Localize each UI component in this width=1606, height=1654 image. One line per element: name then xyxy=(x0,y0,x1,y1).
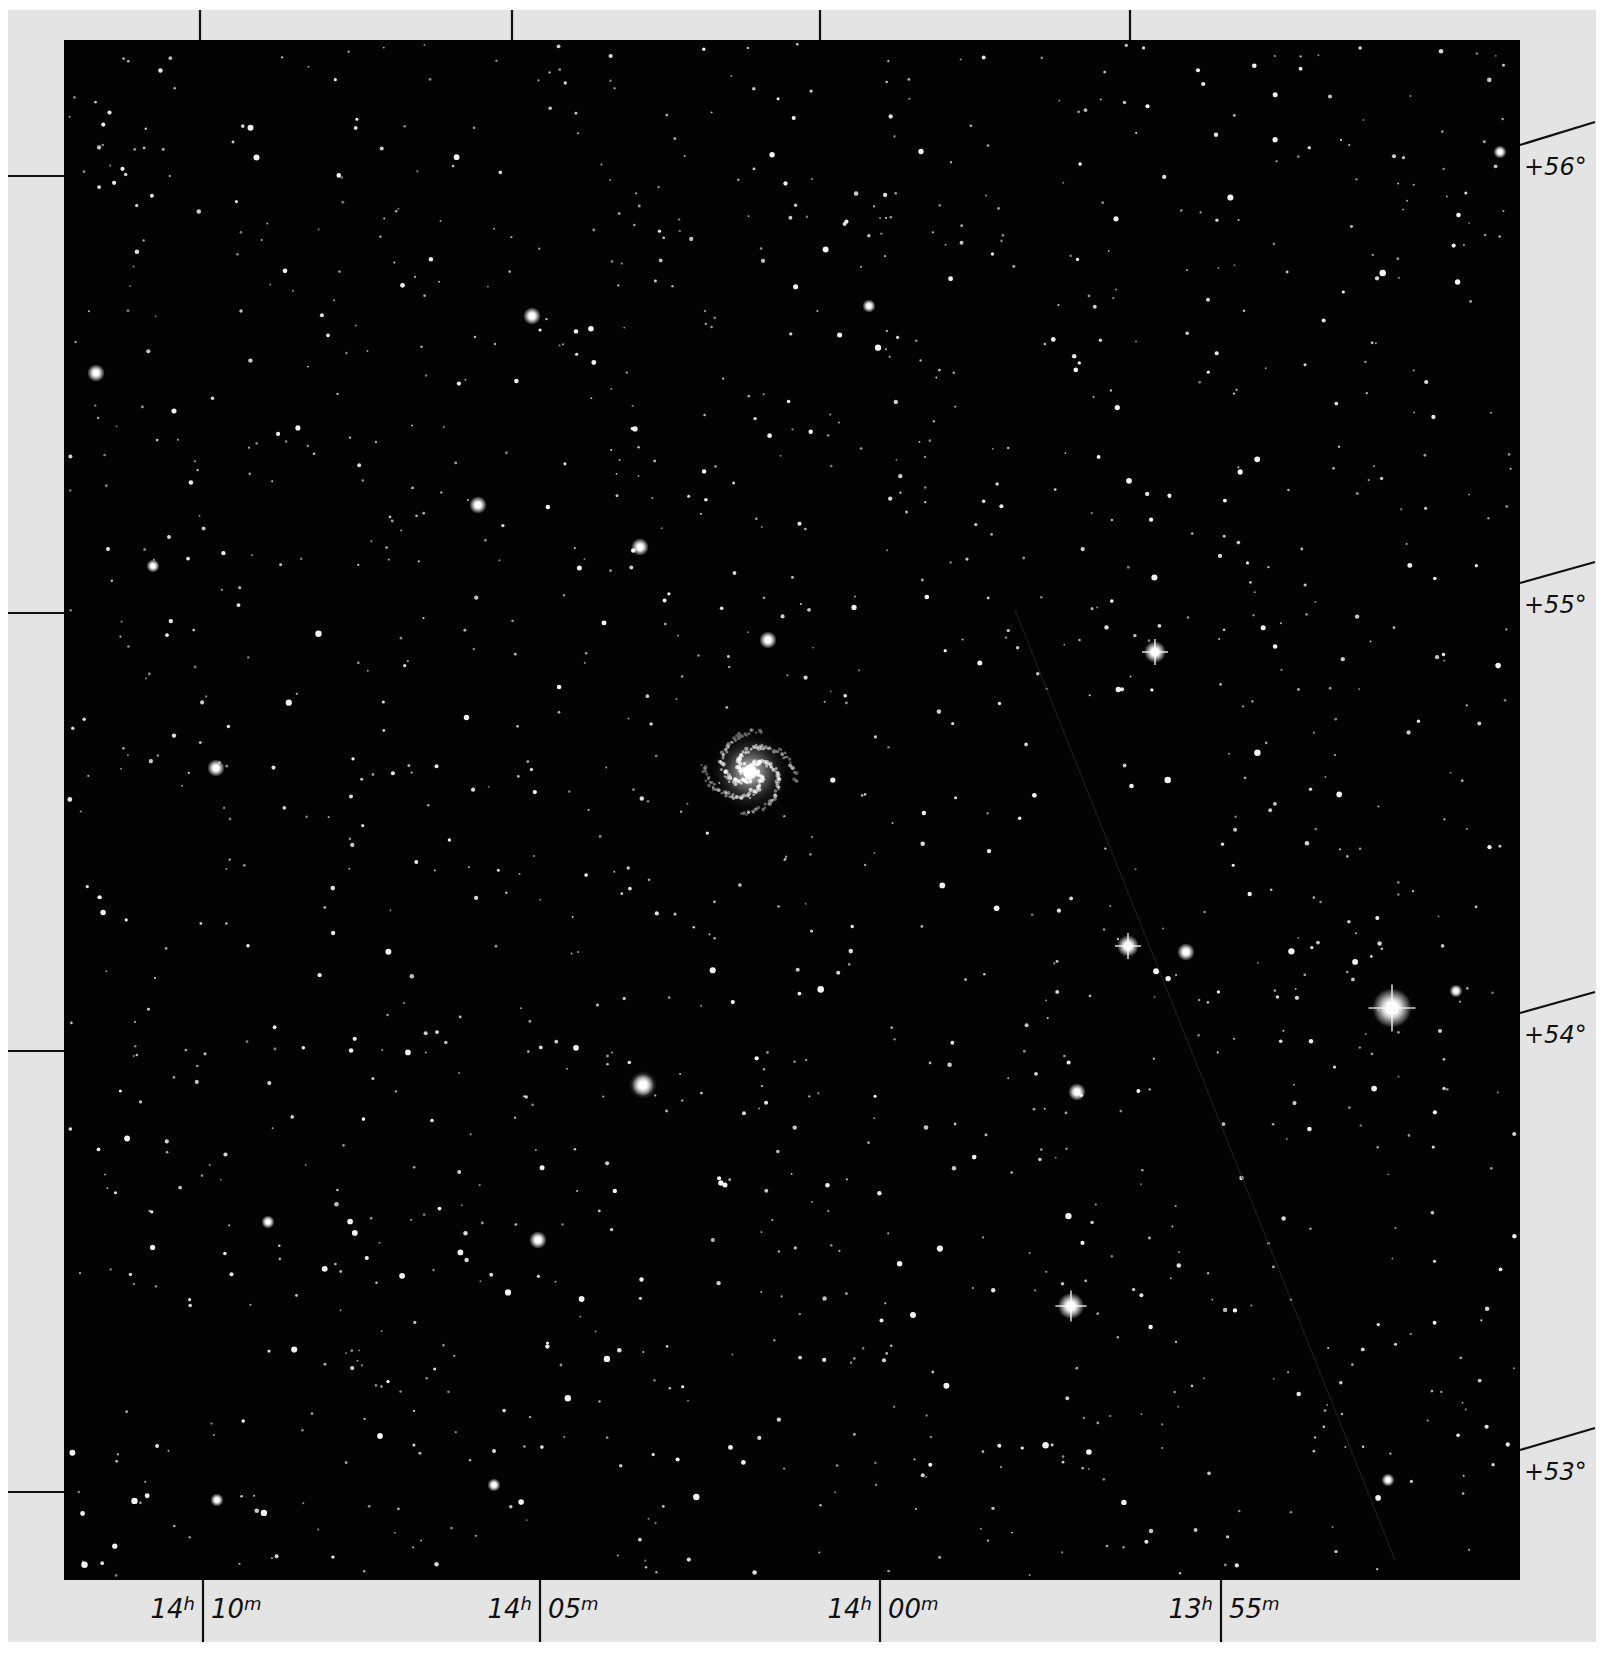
star xyxy=(577,951,579,953)
star xyxy=(610,1228,613,1231)
star xyxy=(584,662,586,664)
star xyxy=(687,1558,691,1562)
star xyxy=(1377,1323,1380,1326)
star xyxy=(836,971,840,975)
star xyxy=(357,564,359,566)
star xyxy=(239,309,243,313)
star xyxy=(1338,446,1341,449)
star xyxy=(249,473,251,475)
star xyxy=(592,229,595,232)
star xyxy=(591,360,596,365)
star xyxy=(154,977,156,979)
star xyxy=(763,1068,765,1070)
star xyxy=(1375,1495,1381,1501)
star xyxy=(101,144,104,147)
star xyxy=(921,1473,925,1477)
star xyxy=(1036,672,1040,676)
star xyxy=(1024,743,1028,747)
bright-star xyxy=(1454,989,1459,994)
star xyxy=(1104,625,1108,629)
star xyxy=(711,111,713,113)
star xyxy=(596,1004,599,1007)
star xyxy=(1165,976,1170,981)
star xyxy=(669,1387,672,1390)
star xyxy=(172,733,176,737)
star xyxy=(564,81,567,84)
star xyxy=(1279,1039,1283,1043)
star xyxy=(887,746,890,749)
star xyxy=(1364,361,1366,363)
star xyxy=(1427,1419,1429,1421)
star xyxy=(575,353,578,356)
star xyxy=(1468,1549,1470,1551)
star xyxy=(1310,946,1313,949)
star xyxy=(873,1117,875,1119)
star xyxy=(601,163,603,165)
bright-star xyxy=(475,502,481,508)
star xyxy=(246,944,249,947)
star xyxy=(354,126,358,130)
star xyxy=(1348,144,1350,146)
star xyxy=(267,1350,270,1353)
star xyxy=(642,1351,644,1353)
star xyxy=(1254,456,1260,462)
star xyxy=(1096,607,1098,609)
star xyxy=(939,883,945,889)
star xyxy=(647,800,650,803)
star xyxy=(479,1280,481,1282)
star xyxy=(1304,583,1307,586)
star xyxy=(1450,772,1452,774)
star xyxy=(382,729,385,732)
star xyxy=(77,1491,80,1494)
star xyxy=(124,1135,130,1141)
star xyxy=(1465,1409,1467,1411)
star xyxy=(684,155,686,157)
star xyxy=(982,1450,985,1453)
star xyxy=(763,596,766,599)
galaxy-arm-knot xyxy=(752,791,755,794)
star xyxy=(1341,1413,1343,1415)
star xyxy=(1186,269,1188,271)
star xyxy=(848,963,851,966)
star xyxy=(135,249,140,254)
star xyxy=(574,329,578,333)
star xyxy=(783,1467,785,1469)
star xyxy=(565,1395,571,1401)
star xyxy=(103,454,106,457)
star xyxy=(1180,209,1183,212)
star xyxy=(1238,219,1240,221)
star xyxy=(173,1525,175,1527)
galaxy-core xyxy=(743,765,757,779)
star xyxy=(112,181,116,185)
star xyxy=(1466,987,1469,990)
star xyxy=(697,654,700,657)
star xyxy=(602,1096,604,1098)
star xyxy=(489,1273,493,1277)
star xyxy=(1170,1277,1172,1279)
star xyxy=(326,333,330,337)
ra-label-h-unit: h xyxy=(521,1593,532,1614)
star xyxy=(1487,78,1492,83)
star xyxy=(403,1002,405,1004)
star xyxy=(817,986,824,993)
star xyxy=(416,170,418,172)
star xyxy=(545,318,547,320)
star xyxy=(771,1219,773,1221)
star xyxy=(574,112,577,115)
star xyxy=(349,795,353,799)
star xyxy=(348,868,350,870)
star xyxy=(394,1532,396,1534)
star xyxy=(508,270,511,273)
galaxy-arm-knot xyxy=(740,812,743,815)
star xyxy=(1058,99,1060,101)
star xyxy=(196,469,198,471)
star xyxy=(605,767,607,769)
star xyxy=(937,1246,943,1252)
star xyxy=(1254,591,1256,593)
star xyxy=(1501,118,1504,121)
bright-star xyxy=(529,313,535,319)
star xyxy=(357,463,361,467)
star xyxy=(80,1511,85,1516)
star xyxy=(1067,1060,1071,1064)
star xyxy=(454,154,460,160)
